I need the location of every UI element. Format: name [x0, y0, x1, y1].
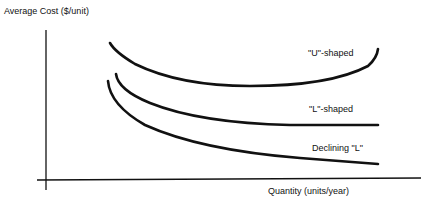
x-axis: [37, 178, 421, 180]
y-axis-label: Average Cost ($/unit): [4, 6, 89, 16]
cost-curves-diagram: [0, 0, 435, 207]
l-shaped-label: "L"-shaped: [309, 104, 353, 114]
u-shaped-label: "U"-shaped: [308, 48, 353, 58]
x-axis-label: Quantity (units/year): [268, 186, 349, 196]
l-shaped-curve: [116, 74, 378, 125]
declining-l-label: Declining "L": [312, 143, 363, 153]
